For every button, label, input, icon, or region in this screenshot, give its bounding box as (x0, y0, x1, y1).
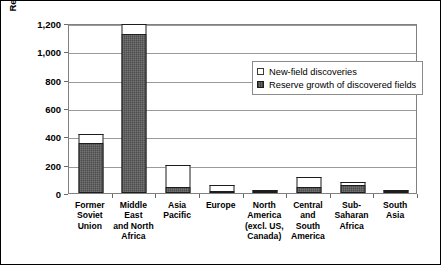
chart-figure: Recoverable Natural Gas (TCF) 0200400600… (0, 0, 441, 265)
bar-segment-new-field (122, 24, 147, 34)
y-axis-tick-label: 0 (17, 189, 61, 200)
legend-label-new-field: New-field discoveries (269, 67, 357, 77)
bar-stack (122, 24, 147, 193)
bar-stack (384, 190, 409, 193)
x-axis-label-line: Africa (106, 231, 160, 241)
bar-segment-reserve-growth (340, 185, 365, 193)
bar-segment-reserve-growth (78, 143, 103, 193)
bar-segment-new-field (166, 165, 191, 187)
chart-legend: New-field discoveries Reserve growth of … (252, 61, 423, 95)
x-axis-category-label: SouthAsia (368, 200, 422, 221)
x-axis-label-line: America (281, 231, 335, 241)
bar-group (113, 25, 157, 193)
x-axis-label-line: Pacific (150, 210, 204, 220)
bar-series-layer (69, 25, 416, 193)
legend-swatch-new-field-icon (257, 68, 264, 75)
bar-segment-reserve-growth (122, 34, 147, 193)
y-axis-tick-mark (64, 194, 68, 195)
bar-segment-new-field (296, 177, 321, 187)
bar-stack (340, 182, 365, 193)
y-axis-tick-label: 800 (17, 75, 61, 86)
x-axis-label-line: and North (106, 221, 160, 231)
legend-label-reserve-growth: Reserve growth of discovered fields (269, 80, 416, 90)
legend-swatch-reserve-growth-icon (257, 81, 264, 88)
bar-stack (296, 177, 321, 193)
bar-group (244, 25, 288, 193)
y-axis-tick-label: 600 (17, 104, 61, 115)
x-axis-tick-mark (373, 194, 374, 198)
bar-segment-reserve-growth (209, 191, 234, 193)
x-axis-tick-mark (243, 194, 244, 198)
bar-segment-reserve-growth (296, 187, 321, 193)
bar-group (374, 25, 418, 193)
x-axis-tick-mark (112, 194, 113, 198)
y-axis-tick-label: 400 (17, 132, 61, 143)
x-axis-tick-mark (417, 194, 418, 198)
x-axis-tick-mark (330, 194, 331, 198)
bar-segment-new-field (78, 134, 103, 144)
x-axis-label-line: Africa (325, 221, 379, 231)
bar-stack (78, 134, 103, 193)
y-axis-tick-label: 1,000 (17, 47, 61, 58)
y-axis-tick-label: 200 (17, 160, 61, 171)
x-axis-tick-mark (199, 194, 200, 198)
bar-stack (253, 190, 278, 193)
x-axis-tick-mark (155, 194, 156, 198)
bar-stack (209, 185, 234, 193)
legend-item-new-field: New-field discoveries (257, 65, 416, 78)
bar-group (331, 25, 375, 193)
bar-group (156, 25, 200, 193)
x-axis-tick-mark (286, 194, 287, 198)
bar-segment-reserve-growth (166, 187, 191, 193)
x-axis-label-line: South (368, 200, 422, 210)
bar-stack (166, 165, 191, 193)
bar-segment-reserve-growth (384, 191, 409, 193)
bar-group (69, 25, 113, 193)
plot-area: New-field discoveries Reserve growth of … (68, 24, 417, 194)
y-axis-tick-label: 1,200 (17, 19, 61, 30)
bar-group (200, 25, 244, 193)
bar-segment-reserve-growth (253, 191, 278, 193)
x-axis-label-line: Asia (368, 210, 422, 220)
bar-group (287, 25, 331, 193)
legend-item-reserve-growth: Reserve growth of discovered fields (257, 78, 416, 91)
